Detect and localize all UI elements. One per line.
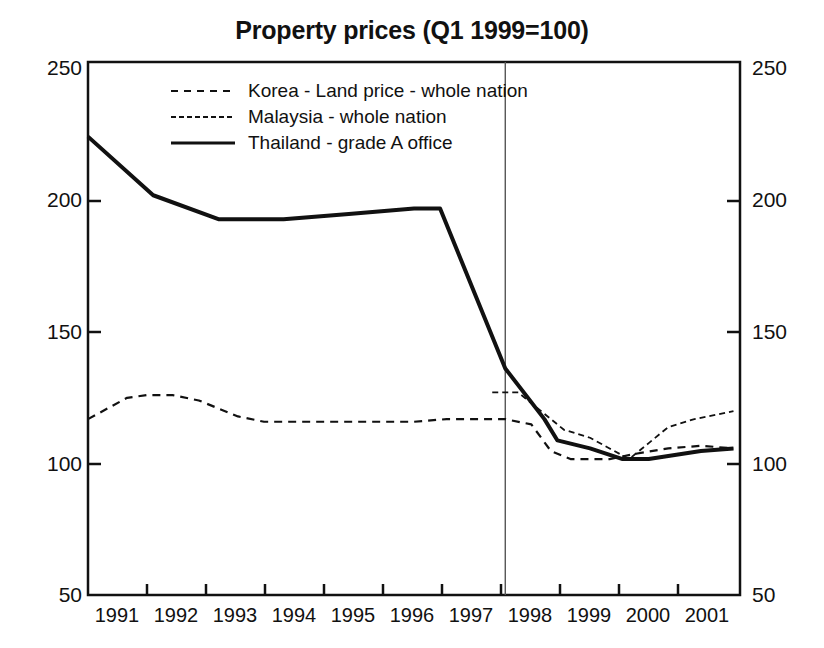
series-layer xyxy=(88,137,733,459)
series-line-malaysia xyxy=(492,392,733,459)
chart-legend: Korea - Land price - whole nation Malays… xyxy=(170,78,528,156)
legend-swatch-solid-icon xyxy=(170,136,236,150)
y-axis-left-ticks xyxy=(88,201,101,464)
legend-swatch-dashed-icon xyxy=(170,84,236,98)
legend-item-malaysia: Malaysia - whole nation xyxy=(170,104,528,130)
legend-label-malaysia: Malaysia - whole nation xyxy=(248,106,447,128)
legend-swatch-dashed-fine-icon xyxy=(170,110,236,124)
series-line-korea xyxy=(88,395,733,459)
series-line-thailand xyxy=(88,137,733,459)
legend-item-korea: Korea - Land price - whole nation xyxy=(170,78,528,104)
x-axis-ticks xyxy=(147,584,678,595)
legend-label-thailand: Thailand - grade A office xyxy=(248,132,453,154)
chart-figure: Property prices (Q1 1999=100) 250 200 15… xyxy=(0,0,824,648)
legend-item-thailand: Thailand - grade A office xyxy=(170,130,528,156)
y-axis-right-ticks xyxy=(727,201,740,464)
legend-label-korea: Korea - Land price - whole nation xyxy=(248,80,528,102)
